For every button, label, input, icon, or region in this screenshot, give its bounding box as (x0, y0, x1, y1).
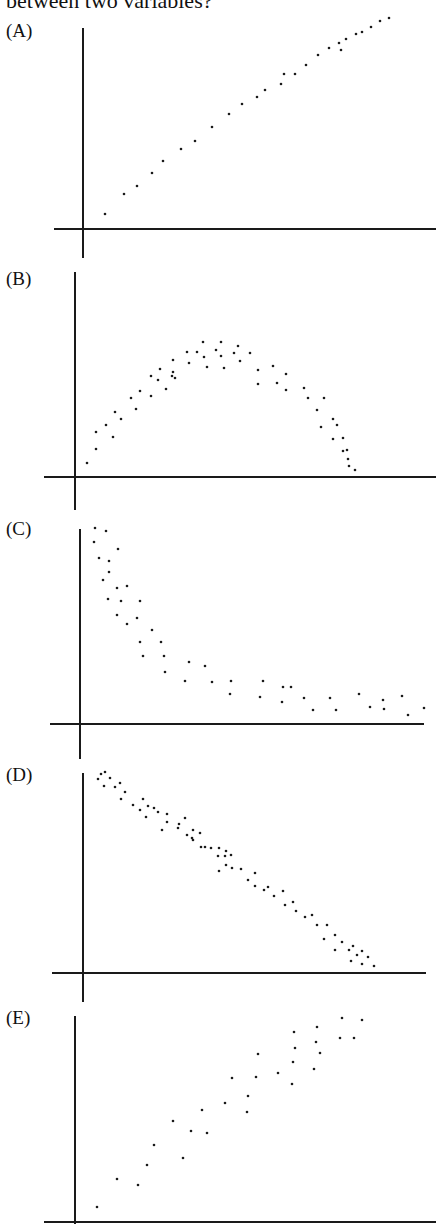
scatter-plot-e[interactable] (44, 1016, 436, 1224)
data-point (105, 530, 108, 533)
data-point (247, 879, 250, 882)
data-point (370, 26, 373, 29)
data-point (341, 941, 344, 944)
data-point (199, 832, 202, 835)
data-point (105, 424, 108, 427)
data-point (120, 798, 123, 801)
data-point (137, 1184, 140, 1187)
data-point (283, 73, 286, 76)
data-point (293, 1031, 296, 1034)
data-point (340, 49, 343, 52)
data-point (320, 426, 323, 429)
data-point (164, 671, 167, 674)
data-point (139, 390, 142, 393)
data-point (356, 954, 359, 957)
data-point (257, 383, 260, 386)
data-point (96, 1206, 99, 1209)
data-point (146, 1164, 149, 1167)
data-point (230, 680, 233, 683)
data-point (224, 1102, 227, 1105)
data-point (334, 949, 337, 952)
data-point (184, 680, 187, 683)
data-point (204, 665, 207, 668)
data-point (347, 458, 350, 461)
data-point (166, 813, 169, 816)
data-point (361, 31, 364, 34)
data-point (157, 811, 160, 814)
scatter-plot-a[interactable] (54, 17, 436, 258)
data-point (116, 1178, 119, 1181)
data-point (171, 375, 174, 378)
data-point (249, 352, 252, 355)
data-point (304, 916, 307, 919)
data-point (160, 641, 163, 644)
data-point (204, 846, 207, 849)
data-point (282, 686, 285, 689)
data-point (153, 1144, 156, 1147)
data-point (120, 418, 123, 421)
data-point (332, 438, 335, 441)
data-point (292, 1061, 295, 1064)
data-point (353, 1037, 356, 1040)
data-point (246, 1111, 249, 1114)
data-point (240, 868, 243, 871)
data-point (257, 1053, 260, 1056)
data-point (86, 462, 89, 465)
data-point (358, 693, 361, 696)
data-point (108, 560, 111, 563)
data-point (329, 697, 332, 700)
data-point (307, 397, 310, 400)
data-point (401, 695, 404, 698)
data-point (151, 629, 154, 632)
scatter-plot-d[interactable] (52, 771, 426, 1002)
data-point (264, 89, 267, 92)
data-point (311, 914, 314, 917)
data-point (114, 786, 117, 789)
data-point (153, 807, 156, 810)
data-point (348, 465, 351, 468)
data-point (124, 791, 127, 794)
data-point (263, 889, 266, 892)
data-point (294, 73, 297, 76)
data-point (303, 697, 306, 700)
data-point (241, 103, 244, 106)
data-point (162, 160, 165, 163)
data-point (323, 938, 326, 941)
data-point (184, 817, 187, 820)
data-point (220, 341, 223, 344)
data-point (196, 351, 199, 354)
data-point (200, 846, 203, 849)
data-point (139, 809, 142, 812)
data-point (292, 901, 295, 904)
data-point (145, 816, 148, 819)
data-point (229, 693, 232, 696)
data-point (225, 850, 228, 853)
data-point (361, 950, 364, 953)
data-point (203, 356, 206, 359)
data-point (100, 773, 103, 776)
data-point (202, 341, 205, 344)
data-point (114, 411, 117, 414)
data-point (348, 949, 351, 952)
data-point (218, 870, 221, 873)
scatter-plot-b[interactable] (44, 272, 436, 510)
data-point (341, 1017, 344, 1020)
data-point (272, 365, 275, 368)
data-point (342, 437, 345, 440)
data-point (230, 854, 233, 857)
data-point (116, 587, 119, 590)
data-point (206, 1132, 209, 1135)
data-point (172, 1120, 175, 1123)
data-point (104, 771, 107, 774)
data-point (159, 368, 162, 371)
data-point (93, 541, 96, 544)
data-point (290, 686, 293, 689)
data-point (104, 213, 107, 216)
scatter-plot-c[interactable] (50, 527, 425, 759)
data-point (383, 708, 386, 711)
data-point (319, 1052, 322, 1055)
data-point (186, 834, 189, 837)
data-point (194, 140, 197, 143)
data-point (166, 821, 169, 824)
data-point (231, 1077, 234, 1080)
